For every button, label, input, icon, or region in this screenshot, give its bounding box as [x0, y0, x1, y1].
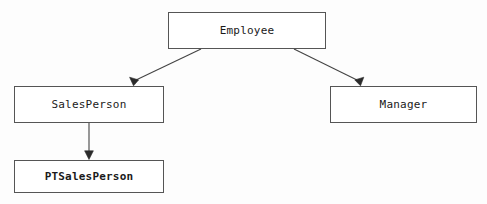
class-node-ptsalesperson[interactable]: PTSalesPerson — [14, 160, 164, 193]
class-node-label: SalesPerson — [51, 99, 126, 110]
class-node-label: Employee — [220, 25, 275, 36]
class-node-salesperson[interactable]: SalesPerson — [14, 86, 164, 123]
class-node-employee[interactable]: Employee — [168, 12, 326, 49]
edge-salesperson-to-ptsalesperson — [85, 123, 94, 160]
edge-employee-to-manager — [294, 49, 364, 86]
class-diagram-canvas: Employee SalesPerson Manager PTSalesPers… — [0, 0, 487, 204]
edge-employee-to-salesperson — [130, 49, 201, 86]
class-node-manager[interactable]: Manager — [330, 86, 477, 123]
class-node-label: PTSalesPerson — [45, 171, 134, 182]
class-node-label: Manager — [380, 99, 428, 110]
